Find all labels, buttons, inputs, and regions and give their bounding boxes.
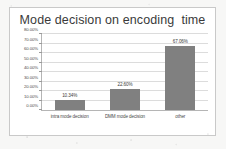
plot-area: 0.00%10.00%20.00%30.00%40.00%50.00%60.00… <box>41 34 208 111</box>
bar-group: 22.60%DMM mode decision <box>97 34 152 110</box>
bar[interactable] <box>165 46 195 110</box>
y-axis-tick-label: 80.00% <box>24 27 38 32</box>
y-axis-tick-label: 0.00% <box>26 103 38 108</box>
y-axis-tick-label: 20.00% <box>24 84 38 89</box>
bar-group: 10.34%intra mode decision <box>42 34 97 110</box>
bar-value-label: 10.34% <box>62 93 77 98</box>
x-axis-tick-label: DMM mode decision <box>105 114 145 119</box>
bars-group: 10.34%intra mode decision22.60%DMM mode … <box>42 34 208 110</box>
y-axis-tick-label: 10.00% <box>24 93 38 98</box>
y-axis-tick-label: 60.00% <box>24 46 38 51</box>
bar[interactable] <box>110 89 140 110</box>
x-axis-tick-label: intra mode decision <box>51 114 89 119</box>
bar[interactable] <box>55 100 85 110</box>
chart-title: Mode decision on encoding time <box>10 13 215 27</box>
x-axis-tick-label: other <box>175 114 185 119</box>
bar-group: 67.06%other <box>153 34 208 110</box>
bar-value-label: 22.60% <box>117 82 132 87</box>
y-axis-tick-label: 30.00% <box>24 74 38 79</box>
y-axis-tick-label: 40.00% <box>24 65 38 70</box>
bar-value-label: 67.06% <box>173 39 188 44</box>
y-axis-tick-label: 50.00% <box>24 55 38 60</box>
y-axis-tick-label: 70.00% <box>24 36 38 41</box>
chart-container: Mode decision on encoding time 0.00%10.0… <box>9 7 216 136</box>
